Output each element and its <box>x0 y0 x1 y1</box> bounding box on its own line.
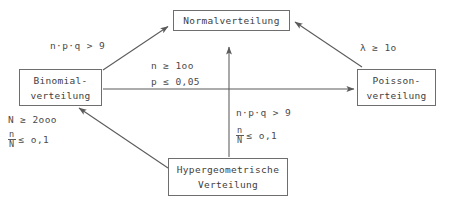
fraction-relation: ≤ o,1 <box>19 134 50 145</box>
node-binomialverteilung-label-line1: Binomial- <box>33 73 87 88</box>
node-poissonverteilung-label-line1: Poisson- <box>372 73 420 88</box>
edge-label-hypergeometric-to-normal-condition-2: n N ≤ o,1 <box>236 126 277 144</box>
edge-label-binomial-to-poisson-condition-1: n ≥ 1oo <box>151 58 194 74</box>
node-poissonverteilung[interactable]: Poisson- verteilung <box>357 69 436 106</box>
node-binomialverteilung[interactable]: Binomial- verteilung <box>19 69 102 106</box>
fraction-relation: ≤ o,1 <box>247 130 278 141</box>
node-hypergeometrische-verteilung[interactable]: Hypergeometrische Verteilung <box>168 158 288 196</box>
edge-poisson-to-normal <box>295 22 362 67</box>
edge-hypergeometric-to-binomial <box>79 108 168 168</box>
edge-label-binomial-to-poisson-condition-2: p ≤ 0,05 <box>151 74 200 90</box>
edge-label-hypergeometric-to-normal-condition-1: n·p·q > 9 <box>236 105 291 121</box>
fraction-denominator: N <box>8 140 16 149</box>
edge-label-hypergeometric-to-binomial-condition-2: n N ≤ o,1 <box>8 130 49 148</box>
node-normalverteilung[interactable]: Normalverteilung <box>173 10 290 31</box>
fraction-denominator: N <box>236 136 244 145</box>
node-poissonverteilung-label-line2: verteilung <box>366 88 426 103</box>
fraction-n-over-N: n N <box>236 126 244 144</box>
fraction-n-over-N: n N <box>8 130 16 148</box>
node-binomialverteilung-label-line2: verteilung <box>30 88 90 103</box>
edge-label-binomial-to-normal: n·p·q > 9 <box>50 38 105 54</box>
node-normalverteilung-label: Normalverteilung <box>183 13 279 28</box>
edge-label-hypergeometric-to-binomial-condition-1: N ≥ 2ooo <box>8 112 57 128</box>
diagram-canvas: Normalverteilung Binomial- verteilung Po… <box>0 0 455 208</box>
edge-label-poisson-to-normal: λ ≥ 1o <box>360 40 397 56</box>
node-hypergeometrische-verteilung-label-line2: Verteilung <box>198 177 258 192</box>
node-hypergeometrische-verteilung-label-line1: Hypergeometrische <box>177 162 279 177</box>
